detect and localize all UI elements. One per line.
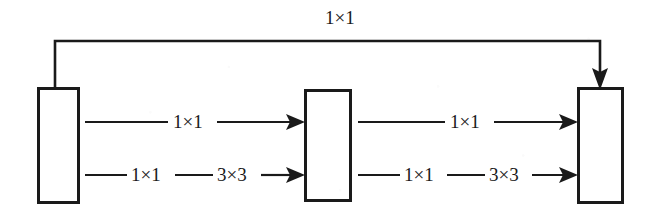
diagram-canvas: 1×1 1×1 1×1 3×3 1×1 1×1 3×3 [0,0,654,216]
block-middle[interactable] [306,91,351,201]
path-left-top-label-1x1: 1×1 [173,112,203,131]
block-right[interactable] [579,89,623,203]
block-right-rect[interactable] [579,89,623,203]
skip-connection-path[interactable] [55,41,608,90]
block-left[interactable] [39,89,79,203]
skip-connection-label: 1×1 [325,8,355,27]
block-middle-rect[interactable] [306,91,351,201]
path-right-bottom[interactable] [358,167,578,183]
path-left-bottom-label-3x3: 3×3 [217,165,247,184]
path-right-bottom-label-3x3: 3×3 [489,165,519,184]
path-left-bottom[interactable] [85,167,305,183]
block-left-rect[interactable] [39,89,79,203]
skip-connection-line [55,41,600,88]
path-right-bottom-label-1x1: 1×1 [404,165,434,184]
diagram-graphics [0,0,654,216]
path-right-top-label-1x1: 1×1 [450,112,480,131]
path-left-bottom-label-1x1: 1×1 [131,165,161,184]
